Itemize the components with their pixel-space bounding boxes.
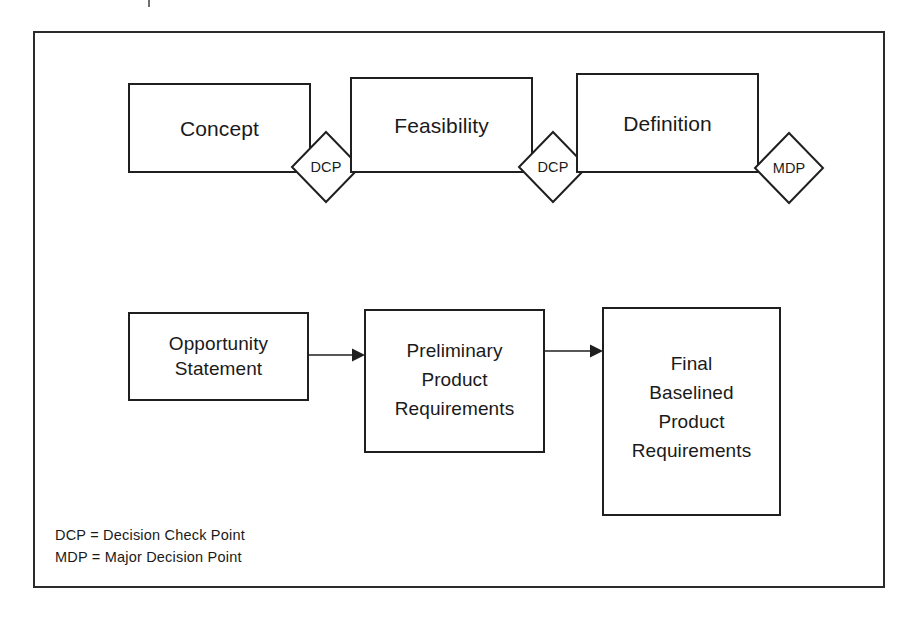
artifact-box-final-baselined-product-requirements-line-1: Final <box>671 353 713 374</box>
artifact-box-opportunity-statement-line-1: Opportunity <box>169 333 269 354</box>
scan-artifact-speck <box>148 0 150 7</box>
phase-box-feasibility[interactable]: Feasibility <box>351 78 532 172</box>
gate-dcp-2-label: DCP <box>538 159 569 175</box>
artifact-box-opportunity-statement-line-2: Statement <box>175 358 263 379</box>
phase-box-concept-label: Concept <box>180 117 259 140</box>
diagram-canvas: Concept DCP Feasibility DCP Definition M… <box>0 0 915 618</box>
phase-box-definition[interactable]: Definition <box>577 74 758 172</box>
artifact-box-final-baselined-product-requirements-line-2: Baselined <box>649 382 733 403</box>
phase-box-concept[interactable]: Concept <box>129 84 310 172</box>
artifact-box-opportunity-statement-shape <box>129 313 308 400</box>
legend-line-dcp: DCP = Decision Check Point <box>55 527 245 543</box>
artifact-box-preliminary-product-requirements[interactable]: Preliminary Product Requirements <box>365 310 544 452</box>
artifact-box-preliminary-product-requirements-line-1: Preliminary <box>406 340 503 361</box>
phase-box-definition-label: Definition <box>623 112 712 135</box>
artifact-box-preliminary-product-requirements-line-3: Requirements <box>395 398 514 419</box>
phase-box-feasibility-label: Feasibility <box>394 114 489 137</box>
artifact-box-final-baselined-product-requirements-line-4: Requirements <box>632 440 751 461</box>
artifact-box-final-baselined-product-requirements[interactable]: Final Baselined Product Requirements <box>603 308 780 515</box>
legend-line-mdp: MDP = Major Decision Point <box>55 549 242 565</box>
artifact-box-final-baselined-product-requirements-line-3: Product <box>658 411 725 432</box>
artifact-box-opportunity-statement[interactable]: Opportunity Statement <box>129 313 308 400</box>
gate-mdp-label: MDP <box>773 160 806 176</box>
gate-dcp-1-label: DCP <box>311 159 342 175</box>
product-development-flow-diagram: Concept DCP Feasibility DCP Definition M… <box>0 0 915 618</box>
artifact-box-preliminary-product-requirements-line-2: Product <box>421 369 488 390</box>
